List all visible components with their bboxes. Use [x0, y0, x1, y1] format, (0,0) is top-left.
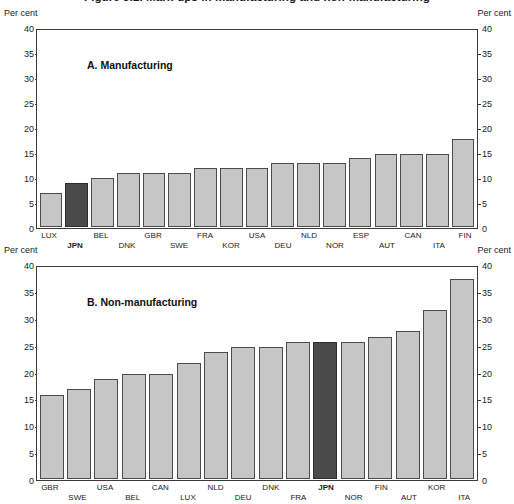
bar-slot [449, 268, 476, 479]
y-tick-label: 20 [482, 125, 498, 134]
x-axis-label-text: JPN [312, 483, 340, 492]
x-axis-label-lux: LUX [174, 482, 202, 504]
bar-dnk [117, 173, 140, 227]
y-tick-label: 15 [482, 150, 498, 159]
bar-fin [368, 337, 392, 479]
x-axis-label-text: BEL [119, 493, 147, 502]
y-tick-label: 20 [18, 125, 34, 134]
bar-slot [244, 31, 270, 227]
bar-aut [396, 331, 420, 479]
bar-slot [284, 268, 311, 479]
bar-slot [424, 31, 450, 227]
x-axis-label-nld: NLD [202, 482, 230, 504]
x-axis-label-text: CAN [400, 231, 426, 240]
bar-bel [122, 374, 146, 480]
panel-caption-b: B. Non-manufacturing [87, 296, 197, 308]
y-tick-label: 0 [18, 225, 34, 234]
x-axis-label-text: USA [91, 483, 119, 492]
y-tick-label: 25 [18, 343, 34, 352]
figure-title: Figure 3.2. Mark-ups in manufacturing an… [0, 0, 514, 3]
x-axis-label-text: BEL [88, 231, 114, 240]
y-tick-label: 15 [18, 150, 34, 159]
y-tick-label: 15 [18, 396, 34, 405]
x-axis-label-usa: USA [91, 482, 119, 504]
x-axis-labels-non-manufacturing: GBRSWEUSABELCANLUXNLDDEUDNKFRAJPNNORFINA… [36, 482, 478, 504]
bar-gbr [143, 173, 166, 227]
x-axis-label-ita: ITA [450, 482, 478, 504]
bar-nld [297, 163, 320, 227]
plot-area-non-manufacturing: B. Non-manufacturing [36, 266, 478, 481]
x-axis-label-text: LUX [36, 231, 62, 240]
bar-deu [271, 163, 294, 227]
bar-esp [349, 158, 372, 227]
bar-slot [230, 268, 257, 479]
x-axis-label-text: DNK [257, 483, 285, 492]
y-tick-label: 35 [482, 289, 498, 298]
bar-swe [67, 389, 91, 479]
x-axis-label-text: FIN [452, 231, 478, 240]
figure-number: Figure 3.2. [84, 0, 143, 3]
y-tick-label: 25 [18, 100, 34, 109]
bar-lux [177, 363, 201, 479]
bar-fra [286, 342, 310, 479]
x-axis-label-bel: BEL [119, 482, 147, 504]
x-axis-label-gbr: GBR [36, 482, 64, 504]
x-axis-label-text: NLD [202, 483, 230, 492]
x-axis-label-text: ITA [450, 493, 478, 502]
x-axis-label-text: DEU [229, 493, 257, 502]
bar-slot [339, 268, 366, 479]
bar-swe [168, 173, 191, 227]
bar-can [149, 374, 173, 480]
x-axis-label-text: SWE [64, 493, 92, 502]
bar-slot [450, 31, 476, 227]
bar-jpn [65, 183, 88, 227]
figure-title-text: Mark-ups in manufacturing and non-manufa… [146, 0, 430, 3]
y-tick-label: 30 [482, 75, 498, 84]
bar-slot [257, 268, 284, 479]
bar-gbr [40, 395, 64, 479]
bar-slot [347, 31, 373, 227]
bar-usa [246, 168, 269, 227]
bar-slot [64, 31, 90, 227]
y-tick-label: 35 [18, 289, 34, 298]
x-axis-label-kor: KOR [423, 482, 451, 504]
x-axis-label-text: USA [244, 231, 270, 240]
x-axis-label-text: AUT [395, 493, 423, 502]
bar-slot [202, 268, 229, 479]
y-tick-label: 10 [18, 423, 34, 432]
x-axis-label-text: FRA [285, 493, 313, 502]
y-tick-label: 40 [482, 262, 498, 271]
y-tick-label: 10 [482, 423, 498, 432]
y-axis-left-non-manufacturing: 0510152025303540 [4, 245, 34, 497]
bar-slot [270, 31, 296, 227]
bar-slot [193, 31, 219, 227]
bar-slot [373, 31, 399, 227]
y-tick-label: 5 [482, 200, 498, 209]
y-tick-label: 5 [482, 450, 498, 459]
bar-slot [296, 31, 322, 227]
bar-slot [218, 31, 244, 227]
bar-ita [426, 154, 449, 228]
y-tick-label: 15 [482, 396, 498, 405]
y-tick-label: 10 [482, 175, 498, 184]
y-tick-label: 20 [18, 370, 34, 379]
bar-slot [38, 268, 65, 479]
y-tick-label: 5 [18, 200, 34, 209]
bar-fin [452, 139, 475, 227]
bar-aut [375, 154, 398, 228]
bar-usa [94, 379, 118, 479]
y-tick-label: 0 [482, 477, 498, 486]
y-tick-label: 35 [18, 50, 34, 59]
x-axis-label-can: CAN [147, 482, 175, 504]
y-tick-label: 35 [482, 50, 498, 59]
bar-nor [341, 342, 365, 479]
panel-caption-a: A. Manufacturing [87, 59, 173, 71]
y-tick-label: 25 [482, 100, 498, 109]
bar-slot [38, 31, 64, 227]
x-axis-label-fra: FRA [285, 482, 313, 504]
y-tick-label: 0 [482, 225, 498, 234]
bar-nld [204, 352, 228, 479]
x-axis-label-text: FIN [368, 483, 396, 492]
y-axis-right-non-manufacturing: 0510152025303540 [482, 245, 512, 497]
y-tick-label: 20 [482, 370, 498, 379]
